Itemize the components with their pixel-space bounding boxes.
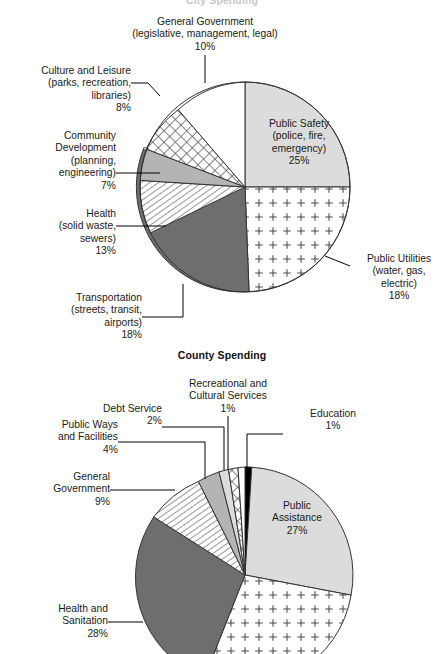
- label-public-utilities: Public Utilities (water, gas, electric) …: [355, 253, 443, 303]
- label-education: Education 1%: [286, 408, 380, 433]
- chart-title-city-spending: City Spending: [0, 0, 444, 6]
- leader-debt-service: [162, 427, 224, 470]
- chart-title-county-spending: County Spending: [0, 349, 444, 361]
- label-health: Health (solid waste, sewers) 13%: [6, 208, 116, 258]
- pie-city-spending: [136, 82, 350, 292]
- leader-transportation: [142, 284, 183, 317]
- figure-canvas: City Spending County Spending General Go…: [0, 0, 444, 654]
- label-public-assistance: Public Assistance 27%: [253, 500, 341, 537]
- label-transportation: Transportation (streets, transit, airpor…: [6, 292, 142, 342]
- label-health-sanitation: Health and Sanitation 28%: [14, 603, 108, 640]
- label-public-safety: Public Safety (police, fire, emergency) …: [248, 118, 350, 168]
- label-general-government: General Government (legislative, managem…: [88, 16, 322, 53]
- label-general-government-2: General Government 9%: [20, 471, 110, 508]
- pie-county-spending: [135, 467, 353, 654]
- label-culture-leisure: Culture and Leisure (parks, recreation, …: [4, 65, 131, 115]
- label-recreational-cultural: Recreational and Cultural Services 1%: [150, 378, 306, 415]
- leader-public-ways: [118, 442, 205, 479]
- leader-public-utilities: [325, 256, 350, 266]
- leader-education: [247, 434, 283, 468]
- label-community-development: Community Development (planning, enginee…: [6, 130, 116, 192]
- label-public-ways: Public Ways and Facilities 4%: [20, 419, 118, 456]
- slice-public-utilities[interactable]: [245, 187, 350, 292]
- leader-culture-leisure: [131, 83, 160, 96]
